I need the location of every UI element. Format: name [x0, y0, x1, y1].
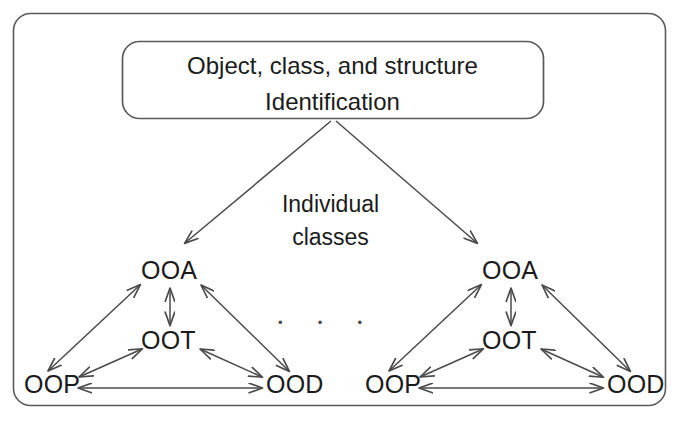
ellipsis-dot: • [357, 316, 362, 329]
left-node-oop: OOP [24, 370, 80, 399]
left-arrow-ooa-ood [201, 285, 289, 371]
title-box-line-1: Object, class, and structure [122, 52, 543, 80]
branch-label-line-1: Individual [248, 191, 413, 218]
left-arrow-oot-ood [200, 349, 262, 377]
right-node-ooa: OOA [482, 256, 538, 285]
ellipsis-dot: • [278, 316, 283, 329]
left-node-oot: OOT [141, 326, 196, 355]
left-arrow-oop-oot [79, 349, 142, 377]
left-node-ooa: OOA [141, 256, 197, 285]
right-arrow-oop-oot [420, 349, 483, 377]
right-arrow-ooa-ood [542, 285, 630, 371]
title-box-line-2: Identification [122, 88, 543, 116]
ellipsis-group: • • • [278, 316, 362, 329]
right-arrow-oop-ooa [389, 285, 481, 371]
figure-canvas: Object, class, and structure Identificat… [0, 0, 681, 422]
right-node-ood: OOD [607, 370, 665, 399]
right-node-oop: OOP [365, 370, 421, 399]
right-node-oot: OOT [482, 326, 537, 355]
right-arrow-oot-ood [541, 349, 603, 377]
left-node-ood: OOD [266, 370, 324, 399]
branch-label-line-2: classes [248, 224, 413, 251]
ellipsis-dot: • [318, 316, 323, 329]
left-arrow-oop-ooa [48, 285, 140, 371]
